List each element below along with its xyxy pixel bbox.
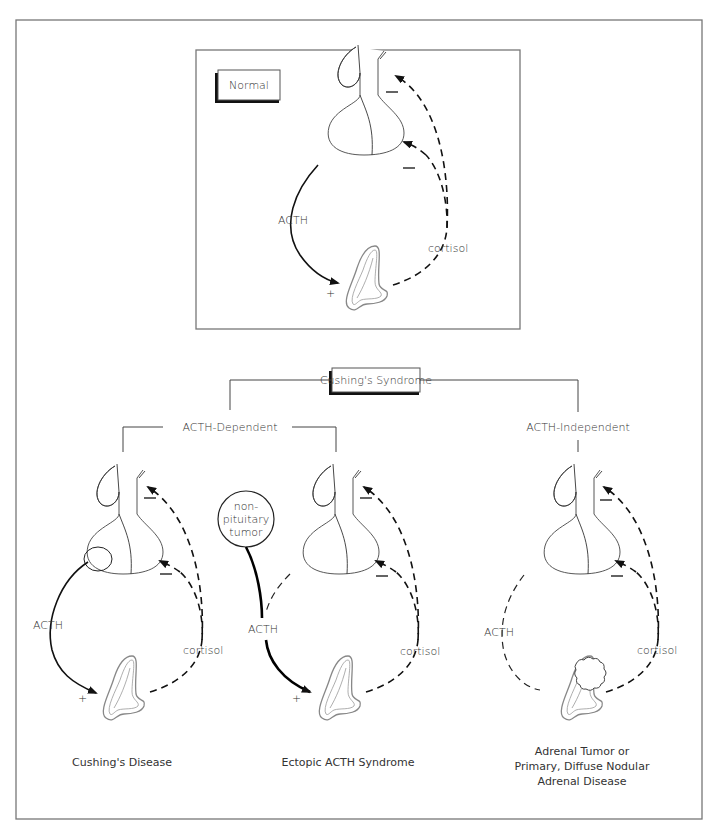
cushings-diagram: Normal ACTH + cortisol Cushing's Syndrom… (0, 0, 708, 831)
plus-sign: + (326, 287, 335, 300)
cortisol-label: cortisol (400, 645, 440, 658)
tumor-label-line-3: tumor (229, 526, 263, 539)
panel-caption: Cushing's Disease (72, 756, 172, 769)
plus-sign: + (78, 692, 87, 705)
acth-label: ACTH (248, 623, 278, 636)
adrenal-gland-icon (103, 656, 144, 720)
acth-arrow (266, 640, 310, 692)
cortisol-label: cortisol (183, 644, 223, 657)
cushings-disease-panel: ACTH + cortisol Cushing's Disease (33, 464, 223, 769)
panel-caption: Ectopic ACTH Syndrome (281, 756, 414, 769)
acth-source-line (246, 547, 262, 618)
tumor-label-line-2: pituitary (223, 513, 269, 526)
panel-caption-line-3: Adrenal Disease (538, 775, 627, 788)
pituitary-gland-icon (544, 464, 620, 574)
pituitary-gland-icon (303, 464, 379, 574)
acth-independent-label: ACTH-Independent (526, 421, 630, 434)
acth-dependent-label: ACTH-Dependent (183, 421, 278, 434)
tree-branch-dependent (230, 380, 332, 410)
acth-label: ACTH (278, 214, 308, 227)
ectopic-acth-panel: non- pituitary tumor ACTH + cortisol Ect… (218, 464, 440, 769)
panel-caption-line-2: Primary, Diffuse Nodular (515, 760, 650, 773)
plus-sign: + (292, 692, 301, 705)
pituitary-gland-icon (87, 464, 163, 574)
cortisol-feedback-lower (393, 155, 447, 285)
tree-branch-independent (420, 380, 578, 412)
acth-independent-panel: ACTH cortisol Adrenal Tumor or Primary, … (484, 464, 677, 788)
cushings-syndrome-title: Cushing's Syndrome (320, 374, 432, 387)
panel-caption-line-1: Adrenal Tumor or (535, 745, 630, 758)
tumor-label-line-1: non- (234, 500, 259, 513)
acth-label: ACTH (484, 626, 514, 639)
classification-tree: Cushing's Syndrome ACTH-Dependent ACTH-I… (123, 368, 630, 452)
adrenal-gland-icon (346, 246, 387, 310)
cortisol-feedback-lower (606, 572, 658, 692)
acth-label: ACTH (33, 619, 63, 632)
cortisol-label: cortisol (637, 644, 677, 657)
cortisol-feedback-lower (150, 572, 202, 692)
normal-panel: Normal ACTH + cortisol (196, 45, 520, 329)
pituitary-gland-icon (328, 45, 404, 155)
cortisol-label: cortisol (428, 242, 468, 255)
normal-title: Normal (229, 79, 269, 92)
adrenal-gland-icon (319, 656, 360, 720)
cortisol-feedback-lower (366, 572, 418, 692)
suppressed-pituitary-acth (266, 574, 290, 612)
